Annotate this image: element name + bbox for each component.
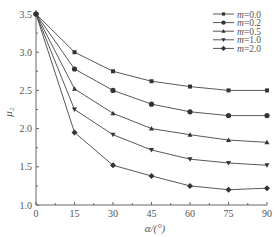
series-m-0-2 [33,11,269,118]
x-tick-label: 45 [147,208,157,219]
y-tick-label: 2.0 [20,123,33,134]
y-axis-label: μ₂ [2,107,14,118]
y-tick-label: 2.5 [20,85,33,96]
legend-item: m=2.0 [213,44,261,54]
y-tick-label: 1.5 [20,161,33,172]
legend: m=0.0m=0.2m=0.5m=1.0m=2.0 [213,10,261,54]
x-tick-label: 0 [34,208,39,219]
x-tick-label: 60 [185,208,195,219]
series-group [33,11,270,193]
y-tick-label: 3.5 [20,9,33,20]
x-tick-label: 15 [70,208,80,219]
x-tick-label: 75 [224,208,234,219]
x-tick-label: 30 [108,208,118,219]
series-m-0-5 [34,12,270,145]
legend-label: m=2.0 [237,44,261,54]
axes: 01530456075901.01.52.02.53.03.5 [20,9,273,220]
x-tick-label: 90 [262,208,272,219]
line-chart: 01530456075901.01.52.02.53.03.5 m=0.0m=0… [0,0,278,237]
y-tick-label: 1.0 [20,200,33,211]
series-m-1-0 [34,12,270,168]
x-axis-label: α/(°) [145,222,166,235]
y-tick-label: 3.0 [20,47,33,58]
series-m-0-0 [34,12,269,92]
